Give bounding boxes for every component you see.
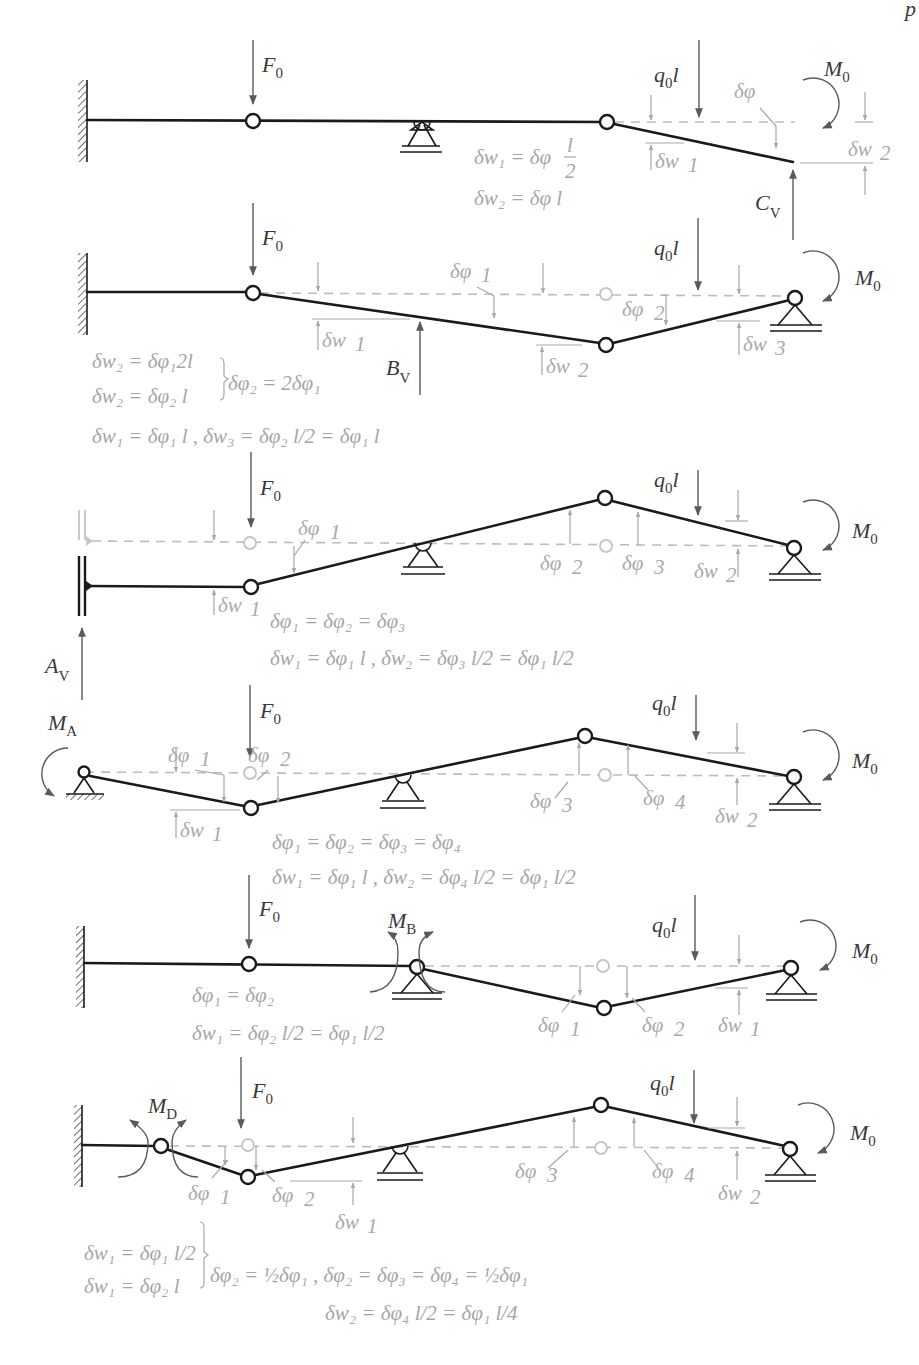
svg-text:1: 1 (250, 597, 261, 621)
equation: δw₂ = δφ₂ l (92, 384, 188, 408)
virtual-displacement-diagram: F0 q0l M0 CV δw1 δφ δw2 (0, 0, 919, 1365)
svg-text:δφ: δφ (538, 1013, 560, 1037)
svg-text:δw: δw (848, 137, 872, 161)
svg-text:2: 2 (280, 747, 291, 771)
roller-support (400, 122, 442, 152)
equation: δw₁ = δφ₁ l/2 (84, 1241, 196, 1265)
svg-text:2: 2 (572, 555, 583, 579)
svg-text:1: 1 (367, 1214, 378, 1238)
panel-a: F0 q0l M0 CV δw1 δφ δw2 (78, 40, 891, 240)
panel-b: F0 q0l M0 BV δw1 δφ1 δw2 δφ2 (78, 203, 881, 448)
svg-text:4: 4 (675, 790, 686, 814)
equation: δw₁ = δφ₁ l , δw₂ = δφ₃ l/2 = δφ₁ l/2 (270, 646, 574, 670)
svg-text:δw: δw (335, 1210, 359, 1234)
svg-text:δφ: δφ (248, 743, 270, 767)
svg-text:2: 2 (674, 1017, 685, 1041)
svg-text:2: 2 (880, 141, 891, 165)
svg-text:AV: AV (43, 653, 69, 684)
svg-text:3: 3 (774, 336, 786, 360)
equation: δw₁ = δφ₂ l (84, 1274, 180, 1298)
svg-text:δφ: δφ (540, 551, 562, 575)
svg-text:δφ: δφ (622, 551, 644, 575)
pin-support (765, 1156, 816, 1181)
svg-text:M0: M0 (849, 1120, 876, 1149)
svg-text:δw: δw (322, 328, 346, 352)
moment-label: M0 (823, 56, 850, 85)
svg-text:δφ: δφ (188, 1181, 210, 1205)
svg-text:q0l: q0l (652, 912, 677, 941)
svg-text:δw: δw (718, 1181, 742, 1205)
equation: δφ₂ = 2δφ₁ (228, 371, 321, 395)
pin-support (766, 975, 817, 1000)
svg-text:δφ: δφ (643, 786, 665, 810)
svg-text:δw: δw (743, 332, 767, 356)
svg-text:1: 1 (355, 332, 366, 356)
svg-text:1: 1 (750, 1017, 761, 1041)
svg-text:q0l: q0l (654, 467, 679, 496)
hinge (246, 114, 260, 128)
svg-text:F0: F0 (259, 698, 281, 727)
svg-text:MA: MA (47, 710, 77, 739)
svg-text:δw: δw (218, 593, 242, 617)
equation: δφ₁ = δφ₂ (192, 983, 274, 1007)
svg-text:δw: δw (655, 149, 679, 173)
svg-text:2: 2 (750, 1185, 761, 1209)
svg-text:δφ: δφ (168, 743, 190, 767)
equation: δw₁ = δφ (474, 145, 552, 169)
svg-text:M0: M0 (851, 748, 878, 777)
reaction-label: CV (755, 190, 781, 221)
svg-text:4: 4 (684, 1163, 695, 1187)
svg-text:3: 3 (653, 555, 665, 579)
equation: δw₂ = δφ₄ l/2 = δφ₁ l/4 (325, 1301, 518, 1325)
svg-text:BV: BV (386, 355, 410, 386)
svg-text:2: 2 (565, 159, 576, 183)
equation: δφ₁ = δφ₂ = δφ₃ (270, 609, 405, 633)
equation: δw₂ = δφ₁2l (92, 349, 193, 373)
svg-text:δφ: δφ (298, 516, 320, 540)
svg-text:δw: δw (180, 818, 204, 842)
roller-support (377, 1146, 423, 1180)
equation: δφ₁ = δφ₂ = δφ₃ = δφ₄ (272, 830, 461, 854)
svg-text:δw: δw (718, 1013, 742, 1037)
pin-support (769, 555, 821, 580)
equation: δw₁ = δφ₁ l , δw₂ = δφ₄ l/2 = δφ₁ l/2 (272, 865, 576, 889)
svg-text:2: 2 (578, 358, 589, 382)
svg-text:M0: M0 (851, 518, 878, 547)
svg-text:1: 1 (570, 1017, 581, 1041)
svg-text:2: 2 (726, 563, 737, 587)
svg-text:δw: δw (694, 559, 718, 583)
equation: δw₁ = δφ₂ l/2 = δφ₁ l/2 (192, 1021, 385, 1045)
svg-text:δw: δw (715, 804, 739, 828)
svg-text:F0: F0 (259, 475, 281, 504)
svg-text:1: 1 (212, 822, 223, 846)
pin-support-ground (66, 778, 104, 800)
distributed-load-label: q0l (654, 62, 679, 91)
equation: δw₂ = δφ l (474, 186, 562, 210)
panel-f: MD F0 q0l M0 δφ1 δφ2 δw1 δφ3 δφ4 δw2 δw₁… (74, 1057, 876, 1325)
svg-text:1: 1 (688, 153, 699, 177)
svg-text:1: 1 (330, 520, 341, 544)
svg-text:1: 1 (200, 747, 211, 771)
svg-text:M0: M0 (851, 938, 878, 967)
pin-support (770, 305, 822, 331)
svg-text:2: 2 (654, 301, 665, 325)
svg-text:δφ: δφ (652, 1159, 674, 1183)
svg-text:δφ: δφ (734, 79, 756, 103)
svg-text:δφ: δφ (530, 789, 552, 813)
svg-text:3: 3 (561, 793, 573, 817)
svg-text:3: 3 (546, 1163, 558, 1187)
svg-text:δφ: δφ (622, 297, 644, 321)
svg-text:F0: F0 (258, 896, 280, 925)
panel-c: F0 q0l M0 AV δw1 δφ1 δφ2 δφ3 δw2 δφ₁ = δ… (43, 452, 878, 700)
svg-text:δφ: δφ (642, 1013, 664, 1037)
svg-text:δφ: δφ (450, 259, 472, 283)
svg-text:q0l: q0l (654, 235, 679, 264)
svg-text:1: 1 (481, 263, 492, 287)
svg-text:F0: F0 (261, 225, 283, 254)
svg-text:2: 2 (304, 1187, 315, 1211)
panel-e: MB F0 q0l M0 δφ1 δφ2 δw1 δφ₁ = δφ₂ δw₁ =… (76, 875, 878, 1045)
force-label: F0 (261, 52, 283, 81)
svg-text:M0: M0 (854, 265, 881, 294)
svg-text:l: l (567, 133, 573, 157)
svg-text:MD: MD (147, 1093, 177, 1122)
